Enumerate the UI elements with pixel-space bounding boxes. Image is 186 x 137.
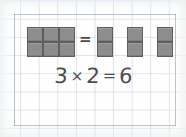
page-frame-bottom-rule [14, 125, 176, 126]
group-2-cell-top [127, 27, 143, 42]
array-cell-r2c3 [59, 42, 75, 57]
group-2-cell-bottom [127, 42, 143, 57]
group-1-cell-bottom [97, 42, 113, 57]
number-sentence: 3×2=6 [13, 64, 176, 88]
group-3-cell-top [157, 27, 173, 42]
group-1-cell-top [97, 27, 113, 42]
equals-sign: = [102, 66, 119, 85]
equation-left-factor: 3 [54, 64, 72, 88]
group-3-cell-bottom [157, 42, 173, 57]
multiplication-sign: × [70, 67, 87, 85]
array-cell-r2c1 [27, 42, 43, 57]
equation-product: 6 [119, 64, 137, 88]
array-cell-r1c2 [43, 27, 59, 42]
worksheet-canvas: = 3×2=6 [0, 0, 186, 137]
equation-right-factor: 2 [86, 64, 104, 88]
array-cell-r1c1 [27, 27, 43, 42]
page-frame-top-rule [14, 14, 176, 15]
equals-symbol-between-models: = [79, 33, 89, 45]
array-cell-r1c3 [59, 27, 75, 42]
array-cell-r2c2 [43, 42, 59, 57]
